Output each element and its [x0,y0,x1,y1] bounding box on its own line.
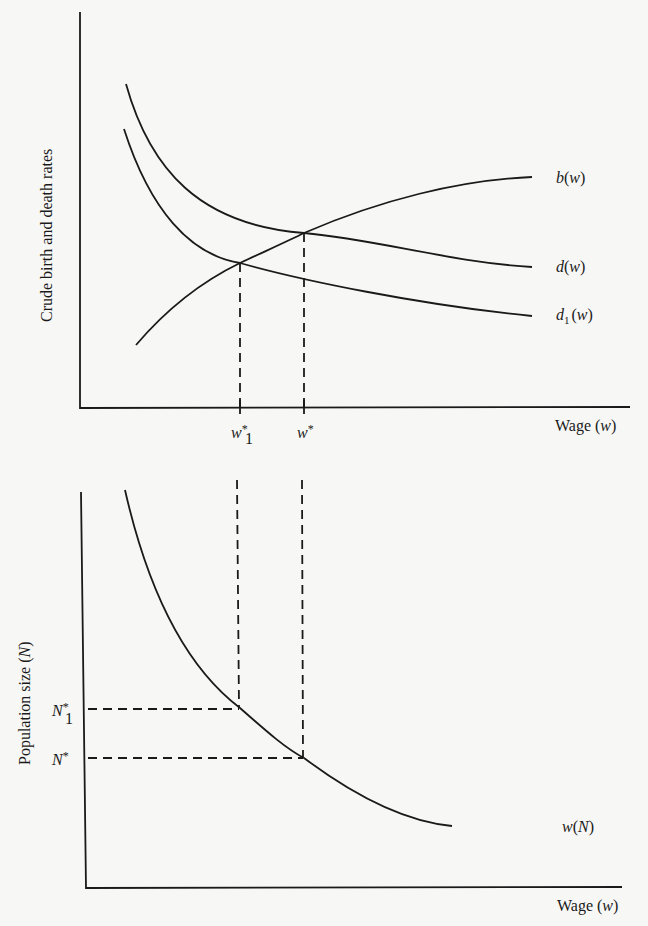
top-chart: Crude birth and death rates b(w) d(w) d1… [38,12,630,447]
bottom-y-axis-label: Population size (N) [16,641,34,765]
curve-d-w [126,84,532,267]
tick-label-n-star: N* [51,749,69,768]
figure-canvas: Crude birth and death rates b(w) d(w) d1… [0,0,648,926]
label-w-n: w(N) [562,818,594,836]
label-d1-w: d1(w) [556,306,593,326]
top-x-axis-label: Wage (w) [555,417,616,435]
top-y-axis-label: Crude birth and death rates [38,149,55,322]
label-d-w: d(w) [556,258,585,276]
tick-label-w-star: w* [297,422,314,441]
curve-w-n [125,490,452,826]
w-star-vertical-projection [302,480,303,758]
tick-label-n1-sub: 1 [65,710,73,727]
bottom-chart-axes [81,492,622,888]
w1-star-vertical-projection [237,480,239,708]
label-b-w: b(w) [556,169,585,187]
bottom-chart: Population size (N) N* 1 N* w(N) Wage (w… [16,480,622,915]
bottom-x-axis-label: Wage (w) [557,897,618,915]
tick-label-w1-sub: 1 [245,430,253,447]
